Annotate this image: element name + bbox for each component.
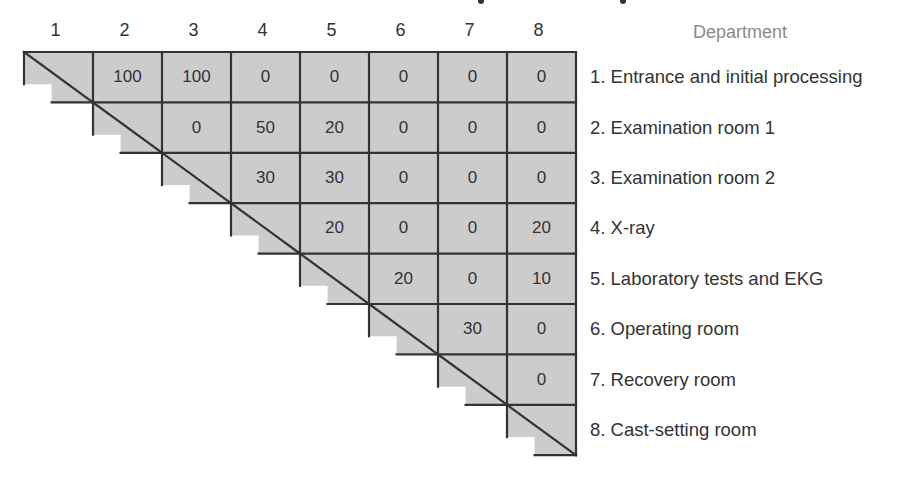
cell-value: 0 bbox=[438, 168, 507, 188]
matrix-grid bbox=[24, 52, 576, 455]
cell-value: 0 bbox=[507, 319, 576, 339]
cell-value: 50 bbox=[231, 118, 300, 138]
cell-value: 20 bbox=[300, 218, 369, 238]
cell-value: 20 bbox=[300, 118, 369, 138]
cell-value: 0 bbox=[507, 370, 576, 390]
department-label: 2. Examination room 1 bbox=[590, 117, 775, 139]
cell-value: 0 bbox=[507, 168, 576, 188]
department-label: 8. Cast-setting room bbox=[590, 419, 757, 441]
cell-value: 0 bbox=[369, 168, 438, 188]
cell-value: 100 bbox=[93, 67, 162, 87]
cell-value: 0 bbox=[369, 67, 438, 87]
department-label: 3. Examination room 2 bbox=[590, 167, 775, 189]
department-label: 1. Entrance and initial processing bbox=[590, 66, 863, 88]
cell-value: 0 bbox=[438, 67, 507, 87]
cell-value: 0 bbox=[438, 218, 507, 238]
department-label: 4. X-ray bbox=[590, 217, 655, 239]
department-label: 5. Laboratory tests and EKG bbox=[590, 268, 823, 290]
cell-value: 0 bbox=[162, 118, 231, 138]
cell-value: 0 bbox=[438, 269, 507, 289]
cell-value: 0 bbox=[369, 218, 438, 238]
department-label: 7. Recovery room bbox=[590, 369, 736, 391]
cell-value: 10 bbox=[507, 269, 576, 289]
cell-value: 20 bbox=[369, 269, 438, 289]
cell-value: 0 bbox=[231, 67, 300, 87]
cell-value: 30 bbox=[300, 168, 369, 188]
cell-value: 0 bbox=[438, 118, 507, 138]
cell-value: 0 bbox=[300, 67, 369, 87]
cell-value: 100 bbox=[162, 67, 231, 87]
cell-value: 20 bbox=[507, 218, 576, 238]
cell-value: 0 bbox=[507, 67, 576, 87]
cell-value: 0 bbox=[507, 118, 576, 138]
cell-value: 30 bbox=[438, 319, 507, 339]
department-label: 6. Operating room bbox=[590, 318, 739, 340]
cell-value: 0 bbox=[369, 118, 438, 138]
cell-value: 30 bbox=[231, 168, 300, 188]
